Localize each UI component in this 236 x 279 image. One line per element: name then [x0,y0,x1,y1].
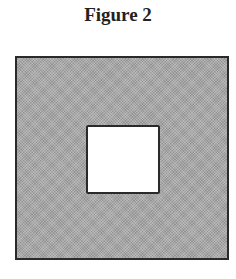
figure-title: Figure 2 [0,4,236,26]
inner-white-square [86,125,160,194]
outer-shaded-square [15,56,229,260]
